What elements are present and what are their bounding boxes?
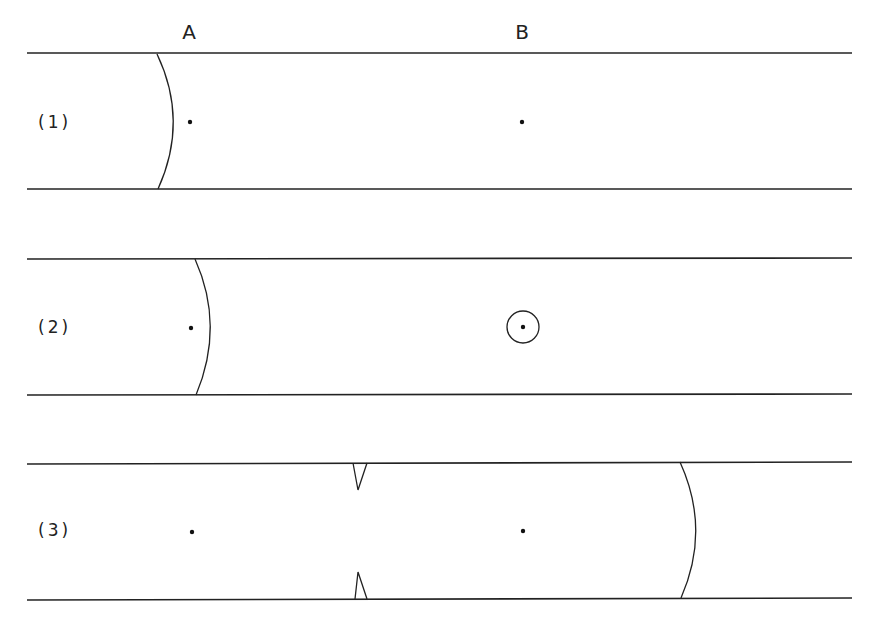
point-a-2 <box>189 326 193 330</box>
point-a-1 <box>188 120 192 124</box>
wavefront-arc-2 <box>195 259 210 395</box>
wavefront-arc-1 <box>157 54 173 189</box>
point-b-3 <box>521 529 525 533</box>
diagram-drawing <box>0 0 871 621</box>
point-b-1 <box>520 120 524 124</box>
bottom-cusp <box>355 572 367 599</box>
panel-1 <box>27 53 852 189</box>
top-cusp <box>353 463 367 490</box>
panel-2 <box>27 258 852 395</box>
point-a-3 <box>190 530 194 534</box>
panel-2-top-line <box>27 258 852 259</box>
panel-3 <box>27 462 852 600</box>
diagram-canvas: A B (1) (2) (3) <box>0 0 871 621</box>
wavefront-arc-3 <box>680 462 696 598</box>
panel-2-bottom-line <box>27 394 852 395</box>
panel-3-bottom-line <box>27 598 852 600</box>
point-b-2 <box>521 325 525 329</box>
panel-3-top-line <box>27 462 852 464</box>
